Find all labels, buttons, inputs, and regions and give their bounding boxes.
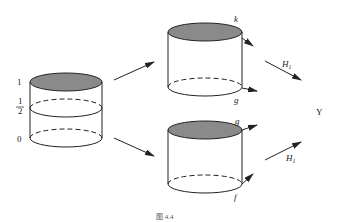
arrow-h-lower-label: H1 [285,153,296,164]
arrow-h-upper-label: H1 [281,59,292,70]
bottom-cylinder-top [168,121,242,139]
arrow-to-top-cylinder [114,62,154,80]
scale-label-1: 1 [17,77,22,87]
scale-labels: 1 1 2 0 [16,77,24,144]
top-cylinder: k g [168,14,257,105]
top-cylinder-top-label: k [234,14,239,24]
figure-caption: 图 4.4 [156,213,174,221]
top-cylinder-bottom-label: g [234,95,239,105]
left-cylinder-top [30,73,102,91]
top-cylinder-top [168,23,242,41]
bottom-cylinder: g f [168,116,257,202]
bottom-cylinder-bottom-label: f [234,192,238,202]
bottom-cylinder-top-label: g [235,116,240,126]
scale-label-0: 0 [17,134,22,144]
left-cylinder [30,73,102,147]
arrow-h-lower [265,142,301,160]
scale-label-half-num: 1 [18,96,23,106]
arrow-to-bottom-cylinder [114,138,154,156]
target-label-y: Y [316,107,323,117]
scale-label-half-den: 2 [18,106,23,116]
diagram-canvas: 1 1 2 0 k g g f H1 H1 Y 图 4.4 [0,0,340,222]
